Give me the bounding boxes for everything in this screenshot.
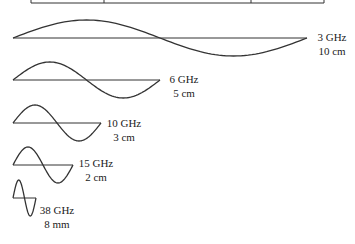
wavelength-label: 5 cm — [164, 86, 204, 100]
wave-10-ghz — [13, 105, 101, 141]
wavelength-label: 8 mm — [37, 217, 77, 231]
wavelength-label: 3 cm — [104, 130, 144, 144]
wave-6-ghz — [13, 62, 160, 98]
frequency-label: 38 GHz — [37, 203, 77, 217]
frequency-label: 6 GHz — [164, 72, 204, 86]
wave-38-ghz — [13, 180, 36, 216]
wave-label: 6 GHz5 cm — [164, 72, 204, 100]
wave-label: 10 GHz3 cm — [104, 116, 144, 144]
wavelength-label: 2 cm — [76, 170, 116, 184]
frequency-label: 15 GHz — [76, 156, 116, 170]
wavelength-label: 10 cm — [312, 44, 352, 58]
wave-label: 3 GHz10 cm — [312, 30, 352, 58]
waves-group — [13, 20, 307, 216]
wave-label: 15 GHz2 cm — [76, 156, 116, 184]
table-bottom-edge — [31, 0, 324, 3]
wave-15-ghz — [13, 147, 73, 183]
wave-3-ghz — [13, 20, 307, 56]
frequency-label: 10 GHz — [104, 116, 144, 130]
wave-label: 38 GHz8 mm — [37, 203, 77, 231]
frequency-label: 3 GHz — [312, 30, 352, 44]
